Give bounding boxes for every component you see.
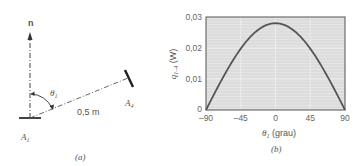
distance-label: 0,5 m	[77, 107, 100, 117]
angle-label: θ1	[50, 88, 57, 99]
surface-a4-label: A4	[124, 98, 134, 109]
normal-label: n	[28, 18, 34, 28]
panel-b-chart: q1–4 (W) 0,03 0,02 0,01 0 –90 –45 0 45 9…	[168, 12, 350, 154]
x-axis-label: θ1 (grau)	[262, 128, 296, 139]
figure: n θ1 0,5 m A4 A1 (a) q1–4 (W)	[0, 0, 357, 166]
x-tick-label: –45	[234, 113, 248, 123]
caption-b: (b)	[271, 144, 282, 154]
caption-a: (a)	[75, 152, 86, 162]
y-tick-label: 0,02	[185, 43, 202, 53]
surface-a1-label: A1	[20, 132, 30, 143]
x-tick-label: 45	[306, 113, 316, 123]
x-tick-label: 90	[340, 113, 350, 123]
y-tick-label: 0,01	[185, 74, 202, 84]
angle-arrowhead-top-icon	[31, 92, 35, 97]
x-tick-label: 0	[273, 113, 278, 123]
y-tick-label: 0,03	[185, 12, 202, 22]
angle-arc	[31, 94, 52, 108]
y-axis-label: q1–4 (W)	[168, 49, 179, 80]
x-tick-label: –90	[199, 113, 213, 123]
normal-arrowhead-icon	[28, 32, 33, 40]
panel-a-diagram: n θ1 0,5 m A4 A1 (a)	[19, 18, 134, 162]
